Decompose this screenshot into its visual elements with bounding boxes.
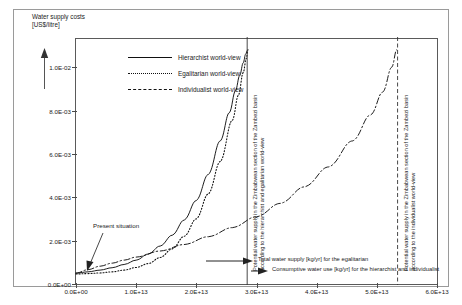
annotation-total-water-supply: Total water supply [kg/yr] for the egali… — [258, 256, 368, 262]
y-tick-label: 6.0E-03 — [49, 150, 71, 157]
annotation-left-line1: Potential water supply in the Zimbabwean… — [252, 95, 258, 271]
y-tick-label: 4.0E-03 — [49, 194, 71, 201]
annotation-left-line2: according to the hierarchist and egalita… — [259, 138, 265, 271]
x-tick-label: 3.0E+13 — [245, 288, 268, 295]
annotation-right-vline: Potential water supply in the Zimbabwean… — [403, 95, 410, 271]
x-tick-label: 5.0E+13 — [365, 288, 388, 295]
y-tick-label: 0.0E+00 — [48, 281, 71, 288]
y-tick-label: 2.0E-03 — [49, 237, 71, 244]
present-situation-arrow — [84, 231, 106, 274]
y-tick-label: 8.0E-03 — [49, 107, 71, 114]
annotation-present-situation-label: Present situation — [93, 222, 139, 229]
annotation-right-line1: Potential water supply in the Zimbabwean… — [403, 95, 409, 271]
annotation-consumptive-water-use: Consumptive water use [kg/yr] for the hi… — [272, 266, 439, 272]
x-tick-label: 4.0E+13 — [305, 288, 328, 295]
consumptive-use-arrow — [251, 267, 269, 275]
series-line-individualist — [76, 50, 397, 273]
annotation-right-line2: according to the individualist world-vie… — [410, 173, 416, 271]
plot-area: 0.0E+002.0E-034.0E-036.0E-038.0E-031.0E-… — [75, 38, 438, 285]
y-axis-title: Water supply costs[US$/litre] — [32, 13, 112, 29]
annotation-right-vline-2: according to the individualist world-vie… — [410, 173, 417, 271]
annotation-left-vline-2: according to the hierarchist and egalita… — [259, 138, 266, 271]
y-axis-title-line2: [US$/litre] — [32, 21, 60, 28]
x-tick-label: 6.0E+13 — [425, 288, 448, 295]
y-tick-label: 1.0E-02 — [49, 64, 71, 71]
total-supply-arrow — [206, 257, 254, 265]
x-tick-label: 0.0E+00 — [64, 288, 87, 295]
figure-container: Water supply costs[US$/litre] 0.0E+002.0… — [13, 9, 449, 287]
x-tick-label: 1.0E+13 — [125, 288, 148, 295]
y-axis-direction-arrow — [40, 48, 49, 90]
annotation-left-vline: Potential water supply in the Zimbabwean… — [252, 95, 259, 271]
x-tick-label: 2.0E+13 — [185, 288, 208, 295]
y-axis-title-line1: Water supply costs — [32, 13, 85, 20]
